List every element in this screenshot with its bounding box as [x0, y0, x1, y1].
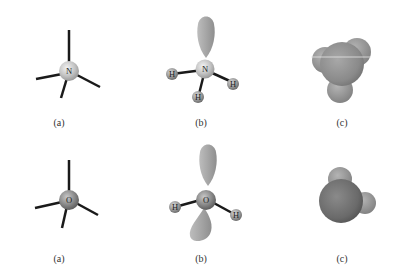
hydrogen-symbol: H	[230, 79, 236, 89]
label-row1-c: (c)	[322, 117, 362, 128]
ammonia-ball-and-stick: N H H H	[166, 17, 239, 104]
hydrogen-symbol: H	[195, 92, 201, 102]
label-row1-a: (a)	[39, 117, 79, 128]
label-row2-a: (a)	[39, 253, 79, 264]
label-row2-c: (c)	[322, 253, 362, 264]
hydrogen-symbol: H	[172, 202, 178, 212]
molecule-figure: N N H H H O	[0, 0, 395, 280]
hydrogen-symbol: H	[233, 210, 239, 220]
nitrogen-symbol: N	[202, 64, 208, 74]
lone-pair-lobe	[197, 17, 214, 59]
oxygen-tetrahedral-bonds: O	[35, 160, 98, 228]
water-space-filling	[319, 167, 376, 223]
hydrogen-symbol: H	[169, 69, 175, 79]
lone-pair-lobe-upper	[199, 145, 216, 187]
ammonia-space-filling	[311, 38, 371, 103]
label-row2-b: (b)	[181, 253, 221, 264]
nitrogen-symbol: N	[66, 66, 72, 76]
water-ball-and-stick: O H H	[169, 145, 242, 242]
nitrogen-tetrahedral-bonds: N	[36, 30, 100, 98]
oxygen-symbol: O	[66, 195, 72, 205]
label-row1-b: (b)	[181, 117, 221, 128]
oxygen-symbol: O	[203, 195, 209, 205]
lone-pair-lobe-lower	[190, 208, 212, 241]
